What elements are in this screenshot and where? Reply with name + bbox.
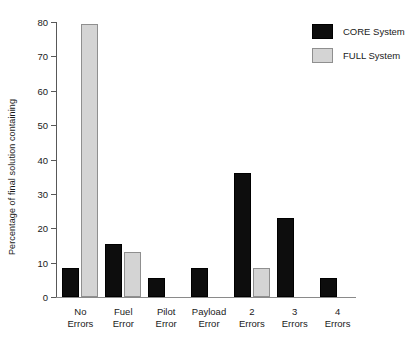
- x-axis-category-label: NoErrors: [67, 306, 93, 329]
- chart-legend: CORE SystemFULL System: [312, 24, 405, 63]
- x-axis-category-label: 4Errors: [325, 306, 351, 329]
- x-axis-line: [56, 297, 356, 298]
- bar-core: [320, 278, 337, 297]
- y-axis-tick-mark: [51, 228, 56, 229]
- legend-item-core: CORE System: [312, 24, 405, 39]
- y-axis-title: Percentage of final solution containing: [0, 0, 24, 354]
- y-axis-tick-label: 0: [43, 292, 48, 303]
- bar-core: [148, 278, 165, 297]
- y-axis-tick-label: 50: [37, 120, 48, 131]
- legend-item-full: FULL System: [312, 48, 405, 63]
- x-axis-category-label-line: 3: [282, 306, 308, 318]
- y-axis-line: [56, 22, 57, 297]
- x-axis-category-label: PilotError: [156, 306, 177, 329]
- y-axis-tick-label: 20: [37, 223, 48, 234]
- y-axis-tick-label: 30: [37, 188, 48, 199]
- legend-label: FULL System: [343, 50, 400, 61]
- y-axis-tick-label: 10: [37, 257, 48, 268]
- y-axis-tick-mark: [51, 263, 56, 264]
- bar-chart-figure: Percentage of final solution containing …: [0, 0, 419, 354]
- x-axis-category-label-line: 4: [325, 306, 351, 318]
- legend-label: CORE System: [343, 26, 405, 37]
- bar-full: [253, 268, 270, 297]
- x-axis-category-label-line: Errors: [67, 318, 93, 330]
- legend-swatch-full: [312, 48, 333, 63]
- bar-core: [234, 173, 251, 297]
- x-axis-category-label-line: Errors: [239, 318, 265, 330]
- y-axis-tick-mark: [51, 297, 56, 298]
- y-axis-tick-mark: [51, 22, 56, 23]
- y-axis-tick-mark: [51, 160, 56, 161]
- x-axis-category-label-line: Errors: [325, 318, 351, 330]
- legend-swatch-core: [312, 24, 333, 39]
- y-axis-tick-label: 70: [37, 51, 48, 62]
- x-axis-category-label-line: Error: [113, 318, 134, 330]
- x-axis-category-label: 2Errors: [239, 306, 265, 329]
- bar-core: [277, 218, 294, 297]
- bar-core: [105, 244, 122, 297]
- x-axis-category-label-line: No: [67, 306, 93, 318]
- y-axis-tick-mark: [51, 91, 56, 92]
- bar-full: [81, 24, 98, 297]
- x-axis-category-label-line: Error: [156, 318, 177, 330]
- bar-core: [191, 268, 208, 297]
- x-axis-category-label-line: Errors: [282, 318, 308, 330]
- y-axis-tick-label: 40: [37, 154, 48, 165]
- y-axis-tick-mark: [51, 56, 56, 57]
- x-axis-category-label-line: Fuel: [113, 306, 134, 318]
- y-axis-tick-mark: [51, 194, 56, 195]
- y-axis-tick-label: 60: [37, 85, 48, 96]
- x-axis-category-label: PayloadError: [192, 306, 226, 329]
- x-axis-category-label-line: Pilot: [156, 306, 177, 318]
- x-axis-category-label: FuelError: [113, 306, 134, 329]
- y-axis-tick-label: 80: [37, 17, 48, 28]
- x-axis-category-label-line: Error: [192, 318, 226, 330]
- x-axis-category-label-line: Payload: [192, 306, 226, 318]
- plot-area: 01020304050607080 NoErrorsFuelErrorPilot…: [56, 22, 356, 297]
- x-axis-category-label: 3Errors: [282, 306, 308, 329]
- x-axis-category-label-line: 2: [239, 306, 265, 318]
- y-axis-tick-mark: [51, 125, 56, 126]
- bar-core: [62, 268, 79, 297]
- bar-full: [124, 252, 141, 297]
